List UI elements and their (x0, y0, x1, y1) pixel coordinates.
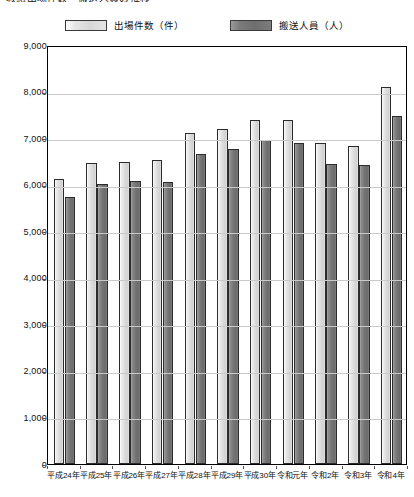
bar-shutsujo (54, 179, 65, 464)
y-axis-tick-mark (42, 465, 46, 466)
bar-hanso (130, 181, 141, 464)
bar-shutsujo (283, 120, 294, 465)
y-axis-tick-label: 7,000 (5, 135, 47, 144)
y-axis-tick-mark (42, 325, 46, 326)
bars-layer (48, 47, 406, 464)
bar-shutsujo (348, 146, 359, 464)
y-axis-tick-label: 4,000 (5, 274, 47, 283)
bar-hanso (196, 154, 207, 464)
bar-shutsujo (152, 160, 163, 464)
bar-shutsujo (381, 87, 392, 464)
chart-plot-area: 9,0008,0007,0006,0005,0004,0003,0002,000… (0, 0, 414, 497)
gridline (48, 419, 406, 420)
x-axis-label: 平成25年 (80, 471, 113, 481)
x-axis-label: 平成30年 (243, 471, 276, 481)
gridline (48, 326, 406, 327)
bar-hanso (294, 143, 305, 464)
bar-hanso (228, 149, 239, 464)
gridline (48, 187, 406, 188)
y-axis-tick-mark (42, 372, 46, 373)
y-axis-tick-label: 8,000 (5, 88, 47, 97)
x-axis-tick-mark (145, 466, 146, 469)
gridline (48, 233, 406, 234)
y-axis-tick-mark (42, 93, 46, 94)
x-axis-tick-mark (342, 466, 343, 469)
x-axis-tick-mark (112, 466, 113, 469)
x-axis-tick-mark (407, 466, 408, 469)
x-axis-label: 平成24年 (47, 471, 80, 481)
gridline (48, 140, 406, 141)
y-axis: 9,0008,0007,0006,0005,0004,0003,0002,000… (0, 0, 47, 497)
bar-hanso (97, 184, 108, 464)
x-axis-tick-mark (309, 466, 310, 469)
y-axis-tick-mark (42, 279, 46, 280)
x-axis-label: 平成26年 (112, 471, 145, 481)
bar-shutsujo (250, 120, 261, 464)
x-axis-label: 平成29年 (211, 471, 244, 481)
gridline (48, 280, 406, 281)
y-axis-tick-mark (42, 186, 46, 187)
bar-hanso (65, 197, 76, 464)
y-axis-tick-label: 1,000 (5, 414, 47, 423)
x-axis-label: 平成27年 (145, 471, 178, 481)
x-axis-tick-mark (211, 466, 212, 469)
y-axis-tick-label: 3,000 (5, 321, 47, 330)
bar-shutsujo (185, 133, 196, 464)
y-axis-tick-label: 6,000 (5, 181, 47, 190)
bar-hanso (163, 182, 174, 464)
bar-hanso (392, 116, 403, 464)
gridline (48, 373, 406, 374)
x-axis-tick-mark (80, 466, 81, 469)
x-axis-tick-mark (243, 466, 244, 469)
x-axis-labels: 平成24年平成25年平成26年平成27年平成28年平成29年平成30年令和元年令… (47, 471, 407, 485)
x-axis-tick-mark (47, 466, 48, 469)
y-axis-tick-label: 9,000 (5, 42, 47, 51)
x-axis-tick-mark (178, 466, 179, 469)
x-axis-label: 令和4年 (374, 471, 407, 481)
y-axis-tick-mark (42, 139, 46, 140)
x-axis-label: 令和3年 (342, 471, 375, 481)
x-axis-label: 令和2年 (309, 471, 342, 481)
y-axis-tick-label: 0 (5, 461, 47, 470)
x-axis-tick-mark (276, 466, 277, 469)
x-axis-tick-mark (374, 466, 375, 469)
bar-shutsujo (315, 143, 326, 464)
gridline (48, 94, 406, 95)
x-axis-label: 平成28年 (178, 471, 211, 481)
y-axis-tick-label: 2,000 (5, 367, 47, 376)
bar-hanso (261, 140, 272, 464)
y-axis-tick-mark (42, 418, 46, 419)
y-axis-tick-label: 5,000 (5, 228, 47, 237)
y-axis-tick-mark (42, 232, 46, 233)
x-axis-label: 令和元年 (276, 471, 309, 481)
bar-shutsujo (217, 129, 228, 464)
plot-frame (47, 46, 407, 465)
